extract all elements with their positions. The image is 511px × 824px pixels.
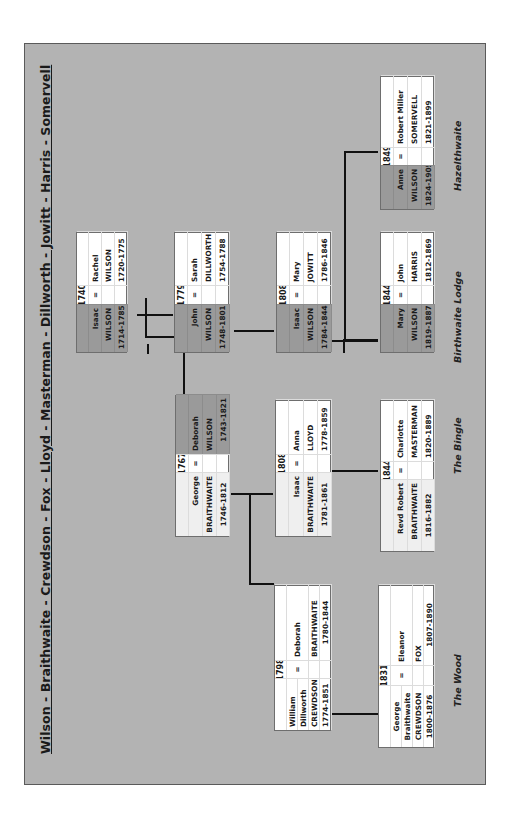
person-given-name: Anne	[394, 165, 408, 209]
person-dates: 1748-1801	[216, 304, 230, 352]
marriage-symbol: =	[289, 454, 304, 472]
connector-line	[344, 151, 378, 153]
person-dates: 1824-1905	[422, 165, 435, 209]
person-surname: HARRIS	[408, 231, 422, 285]
person-given-name: Robert Miller	[394, 75, 408, 147]
person-surname: CREWDSON	[413, 685, 424, 747]
connector-line	[332, 470, 378, 472]
person-middle-name: Braithwaite	[402, 685, 413, 747]
connector-line	[344, 151, 346, 342]
couple-box-george-eleanor[interactable]: 1831 George = Eleanor Braithwaite CREWDS…	[378, 585, 434, 748]
person-dates: 1780-1844	[320, 584, 332, 660]
person-given-name: George	[189, 472, 203, 536]
place-label-the-wood: The Wood	[452, 654, 463, 707]
person-surname: WILSON	[203, 394, 217, 454]
person-surname: BRAITHWAITE	[309, 584, 320, 660]
marriage-symbol: =	[394, 285, 408, 304]
couple-box-robert-charlotte[interactable]: 1844 Revd Robert = Charlotte BRAITHWAITE…	[380, 400, 434, 552]
family-tree-canvas: Wilson - Braithwaite - Crewdson - Fox - …	[0, 0, 511, 824]
person-given-name: John	[394, 231, 408, 285]
marriage-symbol: =	[394, 147, 408, 165]
couple-box-john-sarah[interactable]: 1779 John = Sarah WILSON DILLWORTH 1748-…	[174, 232, 229, 353]
marriage-year: 1808	[277, 285, 290, 304]
couple-box-william-deborah[interactable]: 1798 William = Deborah Dillworth CREWDSO…	[274, 585, 331, 731]
person-surname: WILSON	[408, 304, 422, 352]
marriage-year: 1844	[381, 285, 394, 304]
person-surname: WILSON	[102, 231, 115, 285]
connector-line	[234, 330, 274, 332]
couple-box-isaac-anna[interactable]: 1808 Isaac = Anna BRAITHWAITE LLOYD 1781…	[275, 400, 331, 537]
marriage-symbol: =	[391, 665, 413, 685]
person-dates: 1714-1785	[115, 304, 128, 352]
marriage-year: 1767	[176, 454, 189, 472]
person-dates: 1746-1812	[217, 472, 230, 536]
couple-box-mary-john[interactable]: 1844 Mary = John WILSON HARRIS 1819-1887…	[380, 232, 434, 353]
tree-title: Wilson - Braithwaite - Crewdson - Fox - …	[38, 65, 53, 754]
person-dates: 1800-1876	[424, 685, 435, 747]
person-surname: BRAITHWAITE	[304, 472, 318, 536]
person-dates: 1819-1887	[422, 304, 435, 352]
marriage-year: 1808	[276, 454, 289, 472]
person-given-name: Anna	[289, 399, 304, 454]
person-given-name: Sarah	[188, 231, 202, 285]
person-given-name: Deborah	[287, 584, 309, 660]
couple-box-george-deborah[interactable]: 1767 George = Deborah BRAITHWAITE WILSON…	[175, 395, 229, 537]
connector-line	[147, 344, 149, 354]
person-surname: WILSON	[408, 165, 422, 209]
person-given-name: Isaac	[89, 304, 102, 352]
person-dates: 1781-1861	[318, 472, 332, 536]
person-surname: CREWDSON	[309, 678, 320, 730]
person-dates: 1774-1851	[320, 678, 332, 730]
person-dates: 1784-1844	[318, 304, 332, 352]
person-surname: LLOYD	[304, 399, 318, 454]
person-surname: MASTERMAN	[408, 399, 422, 461]
connector-line	[145, 298, 147, 338]
connector-line	[231, 493, 273, 495]
person-surname: DILLWORTH	[202, 231, 216, 285]
person-middle-name: Dillworth	[298, 678, 309, 730]
marriage-symbol: =	[188, 285, 202, 304]
person-surname: BRAITHWAITE	[408, 479, 422, 551]
connector-line	[332, 713, 378, 715]
marriage-symbol: =	[394, 461, 408, 479]
person-surname: FOX	[413, 584, 424, 665]
person-given-name: Charlotte	[394, 399, 408, 461]
marriage-year: 1779	[175, 285, 188, 304]
marriage-year: 1844	[381, 461, 394, 479]
marriage-year: 1849	[381, 147, 394, 165]
person-surname: WILSON	[202, 304, 216, 352]
person-surname: WILSON	[102, 304, 115, 352]
person-given-name: Mary	[290, 231, 304, 285]
person-surname: WILSON	[304, 304, 318, 352]
marriage-symbol: =	[89, 285, 102, 304]
person-given-name: Deborah	[189, 394, 203, 454]
couple-box-isaac-mary[interactable]: 1808 Isaac = Mary WILSON JOWITT 1784-184…	[276, 232, 331, 353]
person-dates: 1786-1846	[318, 231, 332, 285]
person-dates: 1812-1869	[422, 231, 435, 285]
marriage-symbol: =	[290, 285, 304, 304]
couple-box-anne-robert[interactable]: 1849 Anne = Robert Miller WILSON SOMERVE…	[380, 76, 434, 210]
connector-line	[249, 583, 274, 585]
connector-line	[137, 314, 173, 316]
person-dates: 1821-1899	[422, 75, 435, 147]
person-surname: JOWITT	[304, 231, 318, 285]
person-dates: 1743-1821	[217, 394, 230, 454]
connector-line	[343, 339, 378, 341]
person-given-name: John	[188, 304, 202, 352]
person-given-name: George	[391, 685, 402, 747]
marriage-symbol: =	[189, 454, 203, 472]
connector-line	[249, 493, 251, 585]
marriage-year: 1798	[275, 660, 287, 678]
person-dates: 1820-1889	[422, 399, 435, 461]
place-label-the-bingle: The Bingle	[452, 417, 463, 474]
marriage-year: 1831	[379, 665, 391, 685]
person-surname: BRAITHWAITE	[203, 472, 217, 536]
marriage-year: 1740	[77, 285, 89, 304]
person-dates: 1778-1859	[318, 399, 332, 454]
couple-box-isaac-rachel[interactable]: 1740 Isaac = Rachel WILSON WILSON 1714-1…	[76, 232, 127, 353]
person-dates: 1816-1882	[422, 479, 435, 551]
person-dates: 1720-1775	[115, 231, 128, 285]
person-given-name: Isaac	[289, 472, 304, 536]
person-given-name: William	[287, 678, 298, 730]
person-given-name: Rachel	[89, 231, 102, 285]
